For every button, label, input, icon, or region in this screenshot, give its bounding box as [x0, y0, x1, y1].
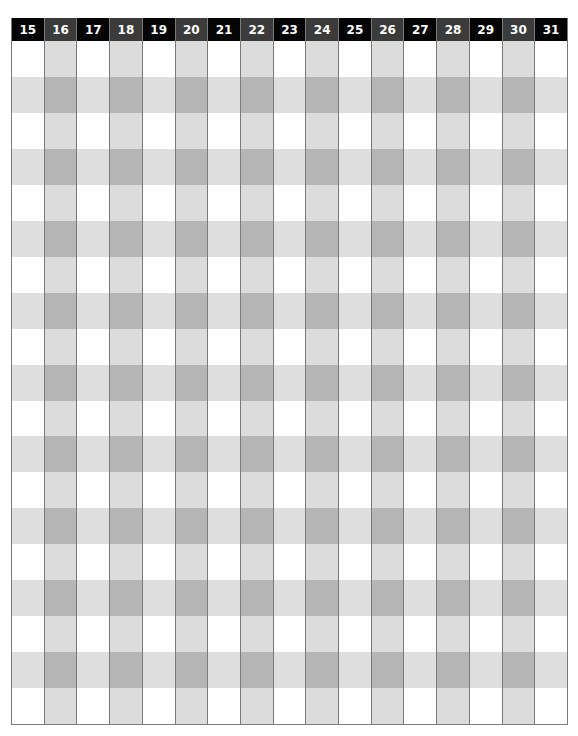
grid-cell	[143, 293, 175, 329]
grid-cell	[208, 436, 240, 472]
grid-cell	[306, 113, 338, 149]
grid-cell	[45, 472, 77, 508]
grid-cell	[143, 580, 175, 616]
grid-cell	[241, 221, 273, 257]
grid-cell	[437, 508, 469, 544]
grid-cell	[339, 41, 371, 77]
grid-cell	[274, 616, 306, 652]
grid-cell	[306, 472, 338, 508]
grid-cell	[143, 508, 175, 544]
grid-cell	[12, 652, 44, 688]
grid-cell	[45, 257, 77, 293]
grid-cell	[12, 185, 44, 221]
day-column: 20	[175, 18, 208, 725]
grid-cell	[339, 616, 371, 652]
grid-cell	[208, 544, 240, 580]
grid-cell	[176, 365, 208, 401]
day-column: 30	[502, 18, 535, 725]
grid-cell	[143, 221, 175, 257]
grid-cell	[372, 688, 404, 725]
grid-cell	[208, 185, 240, 221]
day-header: 29	[470, 18, 502, 41]
grid-cell	[143, 257, 175, 293]
grid-cell	[274, 580, 306, 616]
day-column: 16	[44, 18, 77, 725]
grid-cell	[470, 508, 502, 544]
grid-cell	[470, 365, 502, 401]
grid-cell	[143, 544, 175, 580]
grid-cell	[503, 436, 535, 472]
grid-cell	[176, 401, 208, 437]
grid-cell	[274, 329, 306, 365]
day-header: 27	[404, 18, 436, 41]
grid-cell	[503, 508, 535, 544]
grid-cell	[45, 149, 77, 185]
day-column: 27	[403, 18, 436, 725]
grid-cell	[45, 329, 77, 365]
grid-cell	[470, 329, 502, 365]
grid-cell	[110, 257, 142, 293]
grid-cell	[208, 113, 240, 149]
grid-cell	[535, 293, 567, 329]
grid-cell	[274, 436, 306, 472]
grid-cell	[470, 544, 502, 580]
grid-cell	[241, 652, 273, 688]
grid-cell	[110, 652, 142, 688]
grid-cell	[241, 77, 273, 113]
grid-cell	[176, 436, 208, 472]
grid-cell	[241, 293, 273, 329]
grid-cell	[535, 436, 567, 472]
grid-cell	[12, 580, 44, 616]
grid-cell	[208, 688, 240, 725]
grid-cell	[437, 185, 469, 221]
day-column: 31	[534, 18, 568, 725]
grid-cell	[437, 365, 469, 401]
day-header: 31	[535, 18, 567, 41]
grid-cell	[404, 149, 436, 185]
grid-cell	[339, 652, 371, 688]
grid-cell	[143, 401, 175, 437]
grid-cell	[274, 508, 306, 544]
grid-cell	[110, 472, 142, 508]
grid-cell	[241, 185, 273, 221]
grid-cell	[535, 616, 567, 652]
day-header: 26	[372, 18, 404, 41]
grid-cell	[535, 401, 567, 437]
grid-cell	[535, 41, 567, 77]
day-column: 17	[76, 18, 109, 725]
grid-cell	[274, 113, 306, 149]
grid-cell	[339, 688, 371, 725]
grid-cell	[503, 401, 535, 437]
grid-cell	[306, 77, 338, 113]
grid-cell	[45, 401, 77, 437]
day-column: 23	[273, 18, 306, 725]
grid-cell	[12, 365, 44, 401]
day-column: 25	[338, 18, 371, 725]
grid-cell	[110, 221, 142, 257]
grid-cell	[503, 472, 535, 508]
grid-cell	[404, 544, 436, 580]
grid-cell	[503, 544, 535, 580]
day-header: 28	[437, 18, 469, 41]
grid-cell	[535, 185, 567, 221]
grid-cell	[372, 472, 404, 508]
grid-cell	[241, 436, 273, 472]
day-grid: 1516171819202122232425262728293031	[11, 18, 568, 725]
grid-cell	[437, 77, 469, 113]
grid-cell	[77, 329, 109, 365]
grid-cell	[503, 329, 535, 365]
grid-cell	[77, 580, 109, 616]
grid-cell	[77, 221, 109, 257]
grid-cell	[306, 257, 338, 293]
grid-cell	[208, 293, 240, 329]
grid-cell	[470, 293, 502, 329]
day-column: 19	[142, 18, 175, 725]
grid-cell	[274, 652, 306, 688]
grid-cell	[437, 329, 469, 365]
day-header: 25	[339, 18, 371, 41]
grid-cell	[535, 77, 567, 113]
grid-cell	[143, 329, 175, 365]
day-header: 21	[208, 18, 240, 41]
grid-cell	[12, 544, 44, 580]
grid-cell	[339, 221, 371, 257]
